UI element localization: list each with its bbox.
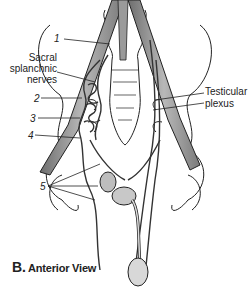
figure-caption: B. Anterior View <box>12 259 96 275</box>
label-4: 4 <box>28 130 34 141</box>
label-2: 2 <box>34 93 40 104</box>
right-iliac-vessel <box>128 0 200 170</box>
label-testicular-line2: plexus <box>205 98 234 109</box>
label-1: 1 <box>54 33 60 44</box>
anatomy-figure: 1 Sacral splanchnic nerves 2 3 4 5 Testi… <box>0 0 250 290</box>
testis <box>128 258 148 286</box>
label-3: 3 <box>30 113 36 124</box>
label-5: 5 <box>40 181 46 192</box>
seminal-vesicle <box>100 172 116 192</box>
caption-letter: B. <box>12 259 26 275</box>
label-sacral-line1: Sacral <box>21 52 57 63</box>
label-sacral-line3: nerves <box>21 74 57 85</box>
label-testicular-line1: Testicular <box>205 86 247 97</box>
caption-text: Anterior View <box>28 262 96 274</box>
label-sacral-line2: splanchnic <box>6 63 57 74</box>
pelvic-plexus-illustration <box>0 0 250 290</box>
